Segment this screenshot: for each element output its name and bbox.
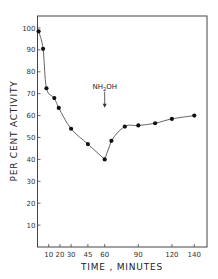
- plot-frame: [38, 16, 208, 247]
- data-point: [170, 117, 174, 121]
- data-point: [69, 127, 73, 131]
- y-tick-label: 30: [27, 178, 36, 186]
- x-tick-label: 90: [134, 251, 143, 259]
- y-tick-label: 100: [22, 25, 35, 33]
- x-axis-ticks: 102030456090120140: [44, 244, 201, 259]
- data-point: [109, 139, 113, 143]
- data-point: [57, 106, 61, 110]
- x-axis-title: TIME , MINUTES: [80, 262, 163, 272]
- y-tick-label: 80: [27, 68, 36, 76]
- data-point: [44, 86, 48, 90]
- y-axis-title: PER CENT ACTIVITY: [9, 80, 19, 181]
- data-point: [41, 47, 45, 51]
- data-points: [37, 29, 197, 161]
- data-point: [153, 121, 157, 125]
- arrowhead-icon: [103, 104, 107, 108]
- data-line: [39, 31, 195, 159]
- nh2oh-annotation: NH2OH: [92, 83, 116, 108]
- data-point: [123, 124, 127, 128]
- y-tick-label: 20: [27, 200, 36, 208]
- x-tick-label: 120: [165, 251, 178, 259]
- data-point: [86, 142, 90, 146]
- data-point: [136, 123, 140, 127]
- data-point: [192, 114, 196, 118]
- data-point: [52, 96, 56, 100]
- data-point: [103, 157, 107, 161]
- annotation-suffix: OH: [106, 83, 117, 91]
- y-tick-label: 60: [27, 112, 36, 120]
- x-tick-label: 140: [188, 251, 201, 259]
- chart: 102030405060708090100 102030456090120140…: [0, 0, 218, 279]
- x-tick-label: 45: [83, 251, 92, 259]
- x-tick-label: 30: [67, 251, 76, 259]
- y-tick-label: 10: [27, 222, 36, 230]
- x-tick-label: 60: [100, 251, 109, 259]
- x-tick-label: 20: [55, 251, 64, 259]
- annotation-prefix: NH: [92, 83, 103, 91]
- data-point: [37, 29, 41, 33]
- svg-text:NH2OH: NH2OH: [92, 83, 116, 92]
- y-tick-label: 40: [27, 156, 36, 164]
- y-tick-label: 90: [27, 46, 36, 54]
- x-tick-label: 10: [44, 251, 53, 259]
- y-tick-label: 50: [27, 134, 36, 142]
- y-tick-label: 70: [27, 90, 36, 98]
